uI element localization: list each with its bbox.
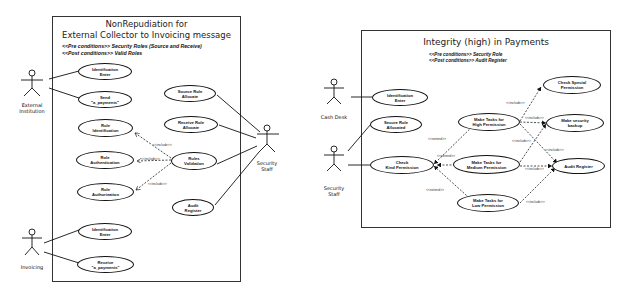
use-case-identification-enter[interactable]: Identification Enter — [78, 63, 132, 80]
use-case-make-tasks-low[interactable]: Make Tasks for Low Permission — [457, 194, 519, 212]
include-label: <<include>> — [506, 101, 525, 105]
use-case-rules-validation[interactable]: Rules Validation — [171, 152, 217, 170]
use-case-role-identification[interactable]: Role Identification — [78, 119, 133, 137]
use-case-make-tasks-medium[interactable]: Make Tasks for Medium Permission — [453, 155, 520, 174]
use-case-audit-register[interactable]: Audit Register — [552, 158, 605, 174]
actor-invoicing[interactable]: Invoicing — [12, 264, 52, 270]
include-label: <<include>> — [545, 148, 564, 152]
include-label: <<include>> — [153, 143, 172, 147]
use-case-role-authentication[interactable]: Role Authentication — [76, 151, 134, 169]
actor-icon — [324, 146, 344, 171]
actor-cash-desk[interactable]: Cash Desk — [314, 114, 354, 120]
use-case-audit-register[interactable]: Audit Register — [172, 199, 214, 216]
actor-icon — [324, 79, 344, 104]
use-case-receive-role-allocate[interactable]: Receive Role Allocate — [164, 116, 218, 133]
actor-icon — [22, 229, 42, 255]
include-label: <<include>> — [512, 139, 531, 143]
extend-label: <<extend>> — [428, 137, 446, 141]
use-case-check-special-permission[interactable]: Check Special Permission — [543, 76, 601, 94]
include-label: <<include>> — [526, 200, 545, 204]
use-case-receive-payments[interactable]: Receive "a_payments" — [77, 256, 134, 273]
include-label: <<include>> — [525, 167, 544, 171]
extend-label: <<extend>> — [426, 188, 444, 192]
use-case-check-kind-permission[interactable]: Check Kind Permission — [370, 156, 434, 174]
use-case-role-authorization[interactable]: Role Authorization — [77, 183, 134, 201]
use-case-secure-role-allocated[interactable]: Secure Role Allocated — [370, 116, 422, 133]
use-case-source-role-allocate[interactable]: Source Role Allocate — [164, 85, 216, 102]
actor-external-institution[interactable]: External Institution — [12, 102, 52, 114]
extend-label: <<extend>> — [437, 154, 455, 158]
use-case-identification-enter-invoicing[interactable]: Identification Enter — [78, 223, 132, 240]
include-label: <<include>> — [148, 182, 167, 186]
include-label: <<include>> — [141, 157, 160, 161]
use-case-make-security-backup[interactable]: Make security backup — [546, 114, 604, 132]
use-case-send-payments[interactable]: Send "a_payments" — [78, 91, 132, 108]
actor-icon — [21, 70, 43, 96]
use-case-identification-enter[interactable]: Identification Enter — [372, 89, 428, 106]
use-case-make-tasks-high[interactable]: Make Tasks for High Permission — [458, 113, 520, 131]
actor-icon — [257, 125, 279, 152]
actor-security-staff[interactable]: Security Staff — [247, 160, 287, 172]
include-label: <<include>> — [525, 116, 544, 120]
actor-security-staff[interactable]: Security Staff — [314, 185, 354, 197]
